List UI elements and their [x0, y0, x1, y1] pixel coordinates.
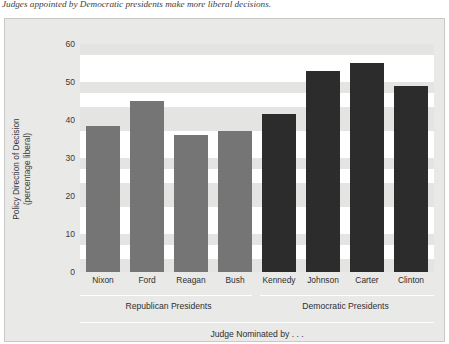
group-labels: Republican PresidentsDemocratic Presiden…: [80, 301, 434, 311]
bar-carter[interactable]: [350, 63, 384, 272]
x-axis-label-nixon: Nixon: [84, 275, 122, 285]
group-separator-rules: [80, 295, 434, 296]
group-rule-democratic: [260, 295, 434, 296]
x-axis-label-bush: Bush: [216, 275, 254, 285]
bar-slot: [304, 44, 342, 272]
y-axis-title-line1: Policy Direction of Decision: [11, 89, 22, 249]
y-axis-ticks: 0102030405060: [51, 44, 75, 272]
x-axis-label-ford: Ford: [128, 275, 166, 285]
group-label-democratic: Democratic Presidents: [257, 301, 434, 311]
bar-slot: [348, 44, 386, 272]
x-axis-label-carter: Carter: [348, 275, 386, 285]
x-axis-label-clinton: Clinton: [392, 275, 430, 285]
bar-clinton[interactable]: [394, 86, 428, 272]
group-label-republican: Republican Presidents: [80, 301, 257, 311]
y-axis-tick-label: 0: [70, 267, 75, 277]
y-axis-tick-label: 40: [65, 115, 75, 125]
y-axis-tick-label: 10: [65, 229, 75, 239]
bar-bush[interactable]: [218, 131, 252, 272]
plot-wrapper: [80, 44, 434, 272]
bar-reagan[interactable]: [174, 135, 208, 272]
figure-caption: Judges appointed by Democratic president…: [2, 0, 442, 10]
figure: Judges appointed by Democratic president…: [0, 0, 449, 344]
y-axis-tick-label: 50: [65, 77, 75, 87]
chart-panel: Policy Direction of Decision (percentage…: [4, 18, 445, 342]
bar-ford[interactable]: [130, 101, 164, 272]
bar-johnson[interactable]: [306, 71, 340, 272]
x-axis-label-kennedy: Kennedy: [260, 275, 298, 285]
y-axis-title: Policy Direction of Decision (percentage…: [11, 89, 33, 249]
bar-nixon[interactable]: [86, 126, 120, 272]
x-axis-label-reagan: Reagan: [172, 275, 210, 285]
y-axis-tick-label: 60: [65, 39, 75, 49]
plot-area: [80, 44, 434, 272]
bar-slot: [84, 44, 122, 272]
x-axis-title: Judge Nominated by . . .: [80, 329, 434, 339]
group-rule-republican: [80, 295, 252, 296]
bar-slot: [392, 44, 430, 272]
bar-kennedy[interactable]: [262, 114, 296, 272]
bar-slot: [260, 44, 298, 272]
x-axis-category-labels: NixonFordReaganBushKennedyJohnsonCarterC…: [80, 275, 434, 285]
x-axis-label-johnson: Johnson: [304, 275, 342, 285]
bar-slot: [216, 44, 254, 272]
y-axis-tick-label: 20: [65, 191, 75, 201]
bar-slot: [128, 44, 166, 272]
y-axis-title-line2: (percentage liberal): [22, 89, 33, 249]
bar-series: [80, 44, 434, 272]
bar-slot: [172, 44, 210, 272]
x-axis-rule: [80, 322, 434, 323]
y-axis-tick-label: 30: [65, 153, 75, 163]
